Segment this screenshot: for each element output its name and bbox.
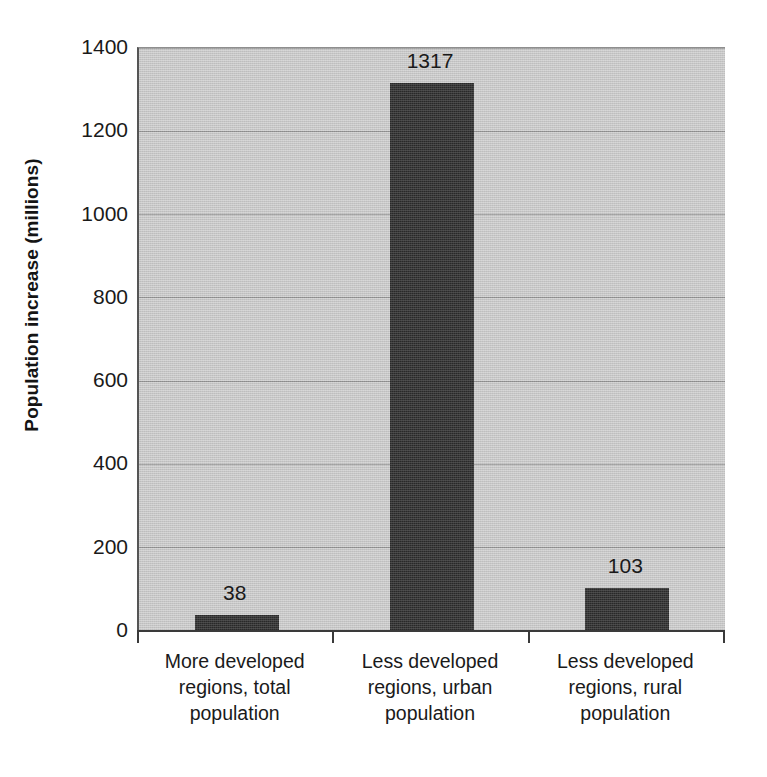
x-tick-label-line: regions, urban xyxy=(332,674,527,700)
x-tick-mark xyxy=(723,632,725,643)
y-tick-label: 1200 xyxy=(34,118,128,142)
x-tick-label-line: Less developed xyxy=(528,648,723,674)
x-tick-mark xyxy=(137,632,139,643)
y-tick-label: 800 xyxy=(34,285,128,309)
x-tick-label-line: More developed xyxy=(137,648,332,674)
bar-value-label: 1317 xyxy=(370,49,490,73)
x-tick-label-line: Less developed xyxy=(332,648,527,674)
y-tick-label: 1000 xyxy=(34,202,128,226)
x-tick-label-line: regions, total xyxy=(137,674,332,700)
x-tick-label-line: population xyxy=(137,700,332,726)
y-tick-label: 200 xyxy=(34,535,128,559)
x-tick-mark xyxy=(528,632,530,643)
x-tick-label: Less developedregions, ruralpopulation xyxy=(528,648,723,726)
x-tick-label: More developedregions, totalpopulation xyxy=(137,648,332,726)
x-tick-label: Less developedregions, urbanpopulation xyxy=(332,648,527,726)
bar xyxy=(390,83,474,631)
x-tick-label-line: population xyxy=(332,700,527,726)
bar-chart-figure: Population increase (millions) 1400 1200… xyxy=(0,0,767,777)
x-axis-line xyxy=(137,630,725,632)
y-tick-label: 0 xyxy=(34,618,128,642)
x-axis-tick-labels: More developedregions, totalpopulationLe… xyxy=(137,648,723,748)
y-tick-label: 1400 xyxy=(34,35,128,59)
x-tick-label-line: regions, rural xyxy=(528,674,723,700)
x-tick-mark xyxy=(332,632,334,643)
bar xyxy=(195,615,279,631)
bar-value-label: 103 xyxy=(565,554,685,578)
plot-area xyxy=(137,47,725,631)
y-tick-label: 400 xyxy=(34,451,128,475)
y-axis-tick-labels: 1400 1200 1000 800 600 400 200 0 xyxy=(34,47,128,630)
bar-value-label: 38 xyxy=(175,581,295,605)
y-tick-label: 600 xyxy=(34,368,128,392)
x-tick-label-line: population xyxy=(528,700,723,726)
bar xyxy=(585,588,669,631)
